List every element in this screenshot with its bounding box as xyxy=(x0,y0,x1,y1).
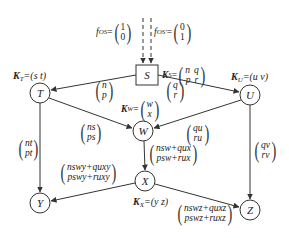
input-sub: OS xyxy=(99,28,108,36)
edge-label-x-z: (nswz+quxzpswz+ruxz) xyxy=(176,201,234,225)
vec-entry: w xyxy=(147,99,153,109)
vec-entry: q xyxy=(173,80,178,90)
k-w-label: KW= (wx) xyxy=(121,97,161,121)
edge-label-u-z: (qvrv) xyxy=(253,138,278,162)
vec-entry: x xyxy=(148,109,152,119)
k-value: =(s t) xyxy=(24,70,47,81)
vec-entry: p xyxy=(102,90,107,100)
vec-entry: nt xyxy=(25,138,32,148)
vec-entry: n xyxy=(102,80,107,90)
node-s-label: S xyxy=(137,65,157,85)
vec-entry: nswy+quxy xyxy=(67,162,110,172)
vec-entry: rv xyxy=(262,150,270,160)
input-label-2: fOS'= (01) xyxy=(154,20,193,44)
node-x-label: X xyxy=(135,171,155,191)
edge-label-x-y: (nswy+quxypswy+ruxy) xyxy=(59,160,118,184)
vec-entry: 0 xyxy=(180,22,185,32)
edge-label-w-x: (nsw+quxpsw+rux) xyxy=(148,141,199,165)
mat-entry: n xyxy=(185,65,190,75)
node-z-label: Z xyxy=(240,200,260,220)
input-label-1: fOS= (10) xyxy=(96,20,133,44)
vec-entry: 0 xyxy=(121,32,126,42)
vec-entry: 1 xyxy=(180,32,185,42)
vec-entry: qv xyxy=(261,140,270,150)
vec-entry: r xyxy=(174,90,178,100)
edge-label-s-u: (qr) xyxy=(165,78,186,102)
k-x-label: KX=(y z) xyxy=(133,197,168,209)
edge-label-t-y: (ntpt) xyxy=(17,136,40,160)
node-u-label: U xyxy=(240,85,260,105)
k-value: =(u v) xyxy=(243,71,268,82)
vec-entry: pt xyxy=(25,148,32,158)
vec-entry: pswz+ruxz xyxy=(185,213,226,223)
vec-entry: 1 xyxy=(121,22,126,32)
node-w-label: W xyxy=(133,121,153,141)
vec-entry: qu xyxy=(193,123,203,133)
mat-entry: r xyxy=(194,75,198,85)
equals: = xyxy=(167,27,172,37)
vec-entry: ns xyxy=(87,122,95,132)
k-symbol: K xyxy=(13,70,20,81)
edge-x-y xyxy=(51,183,135,201)
vec-entry: ps xyxy=(87,132,95,142)
mat-entry: p xyxy=(186,75,191,85)
node-y-label: Y xyxy=(30,193,50,213)
mat-entry: q xyxy=(194,65,199,75)
vec-entry: psw+rux xyxy=(157,153,191,163)
edge-label-s-t: (np) xyxy=(94,78,115,102)
k-value: =(y z) xyxy=(144,196,168,207)
edge-w-x xyxy=(144,141,145,170)
k-symbol: K xyxy=(231,71,238,82)
equals: = xyxy=(133,104,138,114)
vec-entry: nswz+quxz xyxy=(184,203,226,213)
equals: = xyxy=(107,27,112,37)
vec-entry: nsw+qux xyxy=(156,143,191,153)
node-t-label: T xyxy=(30,83,50,103)
k-u-label: KU=(u v) xyxy=(231,72,268,84)
k-t-label: KT=(s t) xyxy=(13,71,46,83)
vec-entry: pswy+ruxy xyxy=(68,172,110,182)
k-symbol: K xyxy=(133,196,140,207)
edge-label-t-w: (nsps) xyxy=(79,120,103,144)
input-sub: OS' xyxy=(157,28,167,36)
